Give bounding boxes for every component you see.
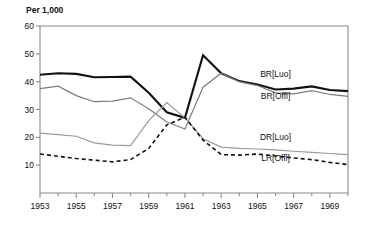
- series-label-drluo: DR[Luo]: [260, 132, 291, 142]
- series-line-lroffl: [40, 117, 348, 164]
- x-tick-label: 1953: [31, 201, 50, 211]
- series-label-lroffl: LR[Offl]: [261, 153, 290, 163]
- x-tick-label: 1961: [175, 201, 194, 211]
- y-tick-label: 50: [25, 49, 35, 59]
- x-tick-label: 1967: [284, 201, 303, 211]
- y-tick-label: 60: [25, 21, 35, 31]
- series-label-brluo: BR[Luo]: [260, 69, 291, 79]
- x-tick-label: 1955: [67, 201, 86, 211]
- y-tick-label: 40: [25, 77, 35, 87]
- y-axis-ticks: 102030405060: [25, 21, 40, 170]
- series-group: [40, 55, 348, 164]
- x-tick-label: 1957: [103, 201, 122, 211]
- y-tick-label: 20: [25, 132, 35, 142]
- x-tick-label: 1965: [248, 201, 267, 211]
- line-chart: 102030405060 195319551957195919611963196…: [0, 0, 370, 228]
- x-tick-label: 1963: [212, 201, 231, 211]
- y-tick-label: 10: [25, 160, 35, 170]
- x-tick-label: 1969: [320, 201, 339, 211]
- chart-container: 102030405060 195319551957195919611963196…: [0, 0, 370, 228]
- x-axis-ticks: 195319551957195919611963196519671969: [31, 193, 348, 211]
- series-label-broffl: BR[Offl]: [261, 91, 291, 101]
- chart-title: Per 1,000: [26, 5, 64, 15]
- y-tick-label: 30: [25, 105, 35, 115]
- x-tick-label: 1959: [139, 201, 158, 211]
- series-line-broffl: [40, 73, 348, 129]
